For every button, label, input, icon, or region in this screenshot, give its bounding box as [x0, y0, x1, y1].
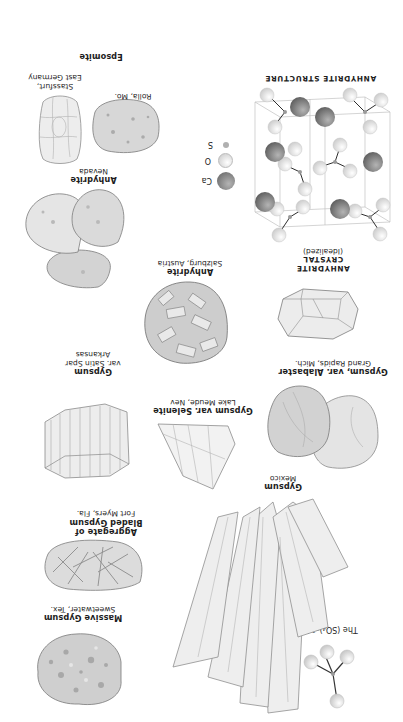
epsomite-name-label: Epsomite [77, 52, 125, 61]
mineral-plate-page: The (SO₄)⁻² Ion Gypsum Mexico [0, 0, 403, 722]
massive-gypsum-label: Massive Gypsum Sweetwater, Tex. [38, 604, 128, 622]
anhydrite-rolla-specimen [88, 97, 163, 157]
anhydrite-rolla-label: Rolla, Mo. [108, 91, 158, 100]
alabaster-label: Gypsum, var. Alabaster Grand Rapids, Mic… [277, 358, 389, 376]
anhydrite-nevada-label: Anhydrite Nevada [66, 166, 121, 184]
bladed-gypsum-label: Aggregate of Bladed Gypsum Fort Myers, F… [67, 508, 145, 536]
epsomite-locality-label: Stassfurt, East Germany [19, 73, 91, 90]
legend-ca: Ca [195, 170, 235, 192]
bladed-gypsum-specimen [38, 537, 148, 592]
epsomite-specimen [35, 92, 85, 167]
legend-o: O [195, 152, 235, 170]
s-atom-icon [223, 142, 229, 148]
ca-atom-icon [217, 172, 235, 190]
satin-spar-label: Gypsum var. Satin Spar Arkansas [53, 349, 133, 376]
selenite-specimen [153, 414, 243, 494]
legend-s: S [195, 138, 235, 152]
anhydrite-crystal-idealized [273, 284, 363, 344]
anhydrite-structure-diagram [245, 82, 395, 247]
gypsum-mexico-specimen [168, 492, 368, 717]
anhydrite-nevada-specimen [18, 182, 128, 292]
anhydrite-salzburg-specimen [140, 279, 235, 367]
alabaster-specimen [263, 377, 383, 477]
satin-spar-specimen [40, 397, 135, 482]
anhydrite-salzburg-label: Anhydrite Salzburg, Austria [145, 258, 235, 276]
atom-legend: Ca O S [195, 138, 235, 192]
massive-gypsum-specimen [31, 630, 131, 710]
anhydrite-structure-title: ANHYDRITE STRUCTURE [258, 73, 383, 82]
anhydrite-crystal-label: ANHYDRITE CRYSTAL (Idealized) [288, 246, 358, 272]
selenite-label: Gypsum var. Selenite Lake Meude, Nev [153, 397, 253, 415]
o-atom-icon [218, 154, 233, 169]
